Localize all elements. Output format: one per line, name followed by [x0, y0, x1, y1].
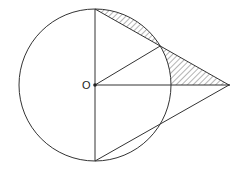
center-label: O	[82, 79, 91, 91]
upper-secant-line	[95, 9, 229, 85]
radius-line	[95, 46, 160, 85]
external-point	[228, 84, 230, 86]
geometry-diagram: O	[0, 0, 242, 169]
center-point	[93, 83, 97, 87]
lower-secant-line	[95, 85, 229, 161]
